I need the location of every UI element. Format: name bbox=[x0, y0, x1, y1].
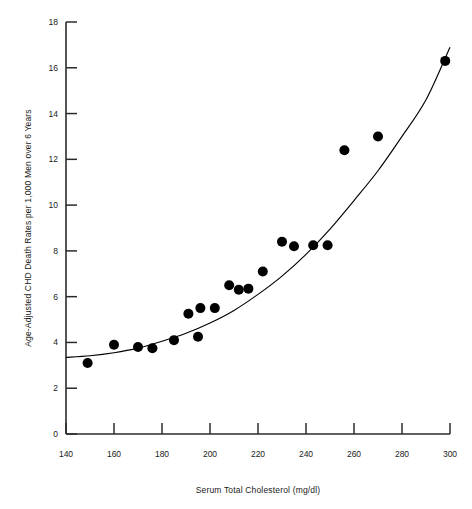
data-point bbox=[339, 145, 349, 155]
data-point bbox=[169, 335, 179, 345]
data-point bbox=[289, 241, 299, 251]
data-point bbox=[195, 303, 205, 313]
y-tick-label: 4 bbox=[53, 337, 58, 347]
data-point bbox=[277, 237, 287, 247]
data-point-group bbox=[83, 56, 451, 368]
y-tick-label: 18 bbox=[49, 17, 59, 27]
y-tick-label: 8 bbox=[53, 246, 58, 256]
data-point bbox=[210, 303, 220, 313]
x-tick-label: 160 bbox=[107, 449, 121, 459]
data-point bbox=[83, 358, 93, 368]
x-tick-label: 240 bbox=[299, 449, 313, 459]
y-tick-label: 0 bbox=[53, 429, 58, 439]
y-axis-title: Age-Adjusted CHD Death Rates per 1,000 M… bbox=[23, 109, 33, 347]
x-tick-label: 180 bbox=[155, 449, 169, 459]
x-tick-label: 200 bbox=[203, 449, 217, 459]
data-point bbox=[183, 309, 193, 319]
y-tick-label: 6 bbox=[53, 292, 58, 302]
x-tick-label: 300 bbox=[443, 449, 457, 459]
data-point bbox=[440, 56, 450, 66]
x-tick-label: 280 bbox=[395, 449, 409, 459]
data-point bbox=[243, 284, 253, 294]
data-point bbox=[308, 240, 318, 250]
data-point bbox=[193, 332, 203, 342]
axis-spines bbox=[66, 22, 450, 434]
x-tick-label: 220 bbox=[251, 449, 265, 459]
data-point bbox=[133, 342, 143, 352]
x-tick-label: 140 bbox=[59, 449, 73, 459]
scatter-plot-svg: 024681012141618 140160180200220240260280… bbox=[0, 0, 472, 509]
data-point bbox=[323, 240, 333, 250]
y-axis-ticks: 024681012141618 bbox=[49, 17, 77, 439]
data-point bbox=[234, 285, 244, 295]
x-axis-ticks: 140160180200220240260280300 bbox=[59, 423, 457, 459]
chart-figure: 024681012141618 140160180200220240260280… bbox=[0, 0, 472, 509]
data-point bbox=[147, 343, 157, 353]
data-point bbox=[373, 131, 383, 141]
y-tick-label: 12 bbox=[49, 154, 59, 164]
data-point bbox=[109, 340, 119, 350]
data-point bbox=[258, 266, 268, 276]
fitted-trend-curve bbox=[66, 47, 450, 357]
x-axis-title: Serum Total Cholesterol (mg/dl) bbox=[196, 485, 321, 495]
y-tick-label: 10 bbox=[49, 200, 59, 210]
y-tick-label: 14 bbox=[49, 109, 59, 119]
y-tick-label: 16 bbox=[49, 63, 59, 73]
x-tick-label: 260 bbox=[347, 449, 361, 459]
data-point bbox=[224, 280, 234, 290]
y-tick-label: 2 bbox=[53, 383, 58, 393]
